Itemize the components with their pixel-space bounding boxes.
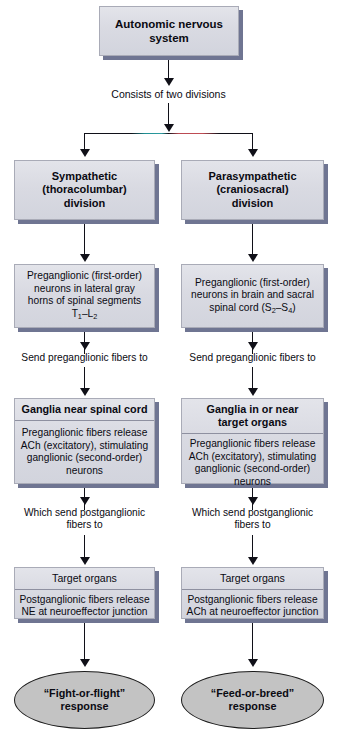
node-parasympathetic-division[interactable]: Parasympathetic (craniosacral) division [181, 160, 324, 220]
node-sympathetic-target-organs-header: Target organs [15, 568, 154, 590]
node-parasympathetic-target-organs-header: Target organs [182, 568, 323, 590]
node-parasympathetic-ganglia-header-line1: Ganglia in or near [184, 403, 321, 416]
node-sympathetic-preganglionic[interactable]: Preganglionic (first-order) neurons in l… [14, 264, 155, 328]
arrowhead-sympathetic-which-send [80, 497, 90, 505]
node-parasympathetic-ganglia-body: Preganglionic fibers release ACh (excita… [182, 434, 323, 492]
node-fight-or-flight-line1: “Fight-or-flight” [44, 687, 126, 700]
node-parasympathetic-ganglia-body-line3: ganglionic (second-order) [189, 463, 316, 475]
node-parasympathetic-preganglionic[interactable]: Preganglionic (first-order) neurons in b… [181, 264, 324, 328]
label-sympathetic-which-send-line2: fibers to [8, 519, 161, 531]
node-parasympathetic-target-organs-body: Postganglionic fibers release ACh at neu… [182, 590, 323, 623]
node-sympathetic-target-body-line1: Postganglionic fibers release [19, 594, 149, 606]
node-parasympathetic-preganglionic-line1: Preganglionic (first-order) [195, 277, 310, 289]
label-consists-of-two-divisions: Consists of two divisions [69, 88, 268, 101]
node-sympathetic-target-organs[interactable]: Target organs Postganglionic fibers rele… [14, 567, 155, 619]
flowchart-canvas: Autonomic nervous system Consists of two… [0, 0, 337, 740]
node-sympathetic-preganglionic-segments: T1–L2 [72, 308, 98, 322]
arrowhead-root-to-consists [164, 78, 174, 86]
node-autonomic-nervous-system[interactable]: Autonomic nervous system [99, 6, 239, 56]
arrowhead-to-parasympathetic [248, 149, 258, 157]
node-autonomic-nervous-system-label: Autonomic nervous system [100, 17, 238, 45]
arrowhead-sympathetic-to-target [80, 557, 90, 565]
node-sympathetic-ganglia-body: Preganglionic fibers release ACh (excita… [15, 421, 154, 483]
connector-root-to-consists [168, 60, 169, 80]
segment-close-paren: ) [292, 302, 295, 313]
segment-l-prefix: –L [82, 308, 93, 319]
label-parasympathetic-which-send-line2: fibers to [176, 519, 329, 531]
node-sympathetic-ganglia-body-line1: Preganglionic fibers release [21, 427, 148, 439]
node-fight-or-flight-line2: response [44, 700, 126, 713]
node-sympathetic-ganglia-header: Ganglia near spinal cord [15, 399, 154, 421]
node-parasympathetic-ganglia-body-line1: Preganglionic fibers release [189, 438, 316, 450]
node-sympathetic-preganglionic-line2: neurons in lateral gray [34, 283, 135, 295]
node-parasympathetic-target-body-line2: ACh at neuroeffector junction [187, 606, 319, 618]
connector-branch-horizontal [84, 133, 253, 134]
node-parasympathetic-preganglionic-line2: neurons in brain and sacral [191, 289, 314, 301]
node-parasympathetic-division-line3: division [232, 197, 274, 210]
node-parasympathetic-target-organs[interactable]: Target organs Postganglionic fibers rele… [181, 567, 324, 619]
arrowhead-sympathetic-to-outcome [80, 659, 90, 667]
node-parasympathetic-division-line1: Parasympathetic [208, 170, 296, 183]
node-parasympathetic-ganglia-body-line4: neurons [189, 476, 316, 488]
segment-l-subscript: 2 [93, 312, 97, 321]
arrowhead-parasympathetic-to-target [248, 557, 258, 565]
arrowhead-branch-point [164, 124, 174, 132]
connector-parasympathetic-to-preganglionic [252, 224, 253, 256]
node-sympathetic-target-organs-body: Postganglionic fibers release NE at neur… [15, 590, 154, 623]
arrowhead-parasympathetic-to-preganglionic [248, 254, 258, 262]
node-feed-or-breed-response[interactable]: “Feed-or-breed” response [181, 671, 324, 729]
arrowhead-parasympathetic-which-send [248, 497, 258, 505]
connector-consists-to-branch [168, 103, 169, 126]
node-parasympathetic-ganglia-body-line2: ACh (excitatory), stimulating [189, 451, 316, 463]
node-sympathetic-division-line2: (thoracolumbar) [42, 183, 126, 196]
node-sympathetic-ganglia-body-line2: ACh (excitatory), stimulating [21, 440, 148, 452]
node-parasympathetic-ganglia-header: Ganglia in or near target organs [182, 399, 323, 434]
node-sympathetic-division[interactable]: Sympathetic (thoracolumbar) division [14, 160, 155, 220]
node-parasympathetic-division-line2: (craniosacral) [216, 183, 288, 196]
node-parasympathetic-preganglionic-segments: spinal cord (S2–S4) [209, 302, 295, 316]
segment-s4-prefix: –S [276, 302, 288, 313]
node-sympathetic-ganglia-body-line4: neurons [21, 465, 148, 477]
node-sympathetic-preganglionic-line1: Preganglionic (first-order) [27, 270, 142, 282]
label-parasympathetic-which-send-line1: Which send postganglionic [176, 507, 329, 519]
node-sympathetic-division-line1: Sympathetic [52, 170, 117, 183]
label-sympathetic-which-send-line1: Which send postganglionic [8, 507, 161, 519]
connector-sympathetic-to-preganglionic [84, 224, 85, 256]
arrowhead-sympathetic-to-ganglia [80, 388, 90, 396]
node-sympathetic-ganglia[interactable]: Ganglia near spinal cord Preganglionic f… [14, 398, 155, 484]
arrowhead-sympathetic-to-preganglionic [80, 254, 90, 262]
node-fight-or-flight-response[interactable]: “Fight-or-flight” response [14, 671, 155, 729]
node-parasympathetic-ganglia[interactable]: Ganglia in or near target organs Pregang… [181, 398, 324, 484]
node-feed-or-breed-line1: “Feed-or-breed” [211, 687, 294, 700]
arrowhead-to-sympathetic [80, 149, 90, 157]
label-sympathetic-send-preganglionic-fibers: Send preganglionic fibers to [8, 352, 161, 364]
label-parasympathetic-which-send-postganglionic: Which send postganglionic fibers to [176, 507, 329, 532]
segment-s2-prefix: spinal cord (S [209, 302, 271, 313]
arrowhead-parasympathetic-to-ganglia [248, 388, 258, 396]
node-sympathetic-ganglia-body-line3: ganglionic (second-order) [21, 452, 148, 464]
node-feed-or-breed-line2: response [211, 700, 294, 713]
arrowhead-parasympathetic-to-outcome [248, 659, 258, 667]
label-sympathetic-which-send-postganglionic: Which send postganglionic fibers to [8, 507, 161, 532]
arrowhead-sympathetic-send-preganglionic [80, 342, 90, 350]
arrowhead-parasympathetic-send-preganglionic [248, 342, 258, 350]
node-sympathetic-target-body-line2: NE at neuroeffector junction [19, 606, 149, 618]
node-sympathetic-preganglionic-line3: horns of spinal segments [28, 295, 141, 307]
node-parasympathetic-ganglia-header-line2: target organs [184, 416, 321, 429]
node-sympathetic-division-line3: division [64, 197, 106, 210]
node-parasympathetic-target-body-line1: Postganglionic fibers release [187, 594, 319, 606]
label-parasympathetic-send-preganglionic-fibers: Send preganglionic fibers to [176, 352, 329, 364]
